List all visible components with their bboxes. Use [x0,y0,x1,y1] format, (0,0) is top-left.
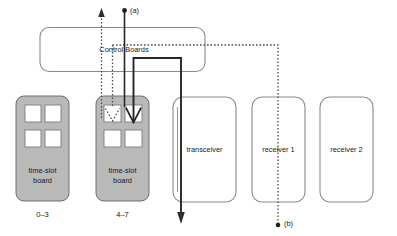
solid-path-down-arrowhead [177,212,185,224]
slot-7 [125,130,142,147]
port-b-dot [276,223,281,228]
transceiver-box [173,97,236,202]
board-4-7-line1: time-slot [109,166,137,175]
board-4-7-line2: board [113,176,132,185]
board-0-3-line2: board [33,176,52,185]
port-a-dot [122,8,127,13]
slot-2 [25,130,41,147]
receiver-2-box [320,97,373,202]
slot-1 [45,105,61,122]
slot-4 [104,105,121,122]
diagram-canvas: Control Boards time-slot board time-slot… [0,0,397,236]
slot-6 [104,130,121,147]
slot-3 [45,130,61,147]
slot-0 [25,105,41,122]
diagram-svg [0,0,397,236]
board-0-3-line1: time-slot [29,166,57,175]
dotted-path-up-arrowhead [98,8,105,17]
time-slot-board-4-7-label: time-slot board [96,166,149,185]
time-slot-board-0-3-label: time-slot board [16,166,69,185]
